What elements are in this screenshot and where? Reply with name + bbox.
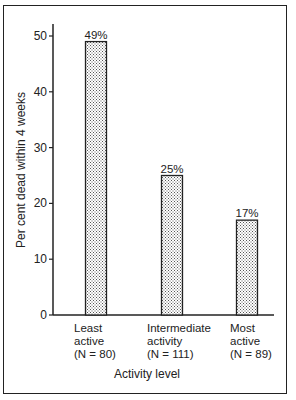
bars: 49%25%17% bbox=[84, 29, 258, 315]
x-tick-label: Intermediate bbox=[147, 322, 211, 334]
bar bbox=[162, 176, 183, 316]
y-tick-label: 40 bbox=[34, 85, 48, 99]
x-tick-label: (N = 89) bbox=[230, 348, 272, 360]
x-tick-labels: Leastactive(N = 80)Intermediateactivity(… bbox=[74, 322, 272, 360]
y-axis-label: Per cent dead within 4 weeks bbox=[14, 92, 28, 248]
y-tick-label: 0 bbox=[40, 308, 47, 322]
bar-chart: 01020304050 49%25%17% Leastactive(N = 80… bbox=[0, 0, 296, 400]
bar-value-label: 17% bbox=[235, 207, 258, 219]
bar bbox=[86, 42, 107, 315]
bar bbox=[237, 220, 258, 315]
x-tick-label: activity bbox=[147, 335, 182, 347]
x-tick-label: active bbox=[230, 335, 260, 347]
x-tick-label: active bbox=[74, 335, 104, 347]
bar-value-label: 25% bbox=[160, 163, 183, 175]
y-tick-label: 50 bbox=[34, 29, 48, 43]
y-tick-label: 20 bbox=[34, 196, 48, 210]
y-tick-label: 30 bbox=[34, 141, 48, 155]
x-axis-label: Activity level bbox=[114, 367, 180, 381]
y-tick-label: 10 bbox=[34, 252, 48, 266]
x-tick-label: Least bbox=[74, 322, 103, 334]
x-tick-label: Most bbox=[230, 322, 256, 334]
x-tick-label: (N = 111) bbox=[147, 348, 194, 360]
bar-value-label: 49% bbox=[84, 29, 107, 41]
x-tick-label: (N = 80) bbox=[74, 348, 116, 360]
